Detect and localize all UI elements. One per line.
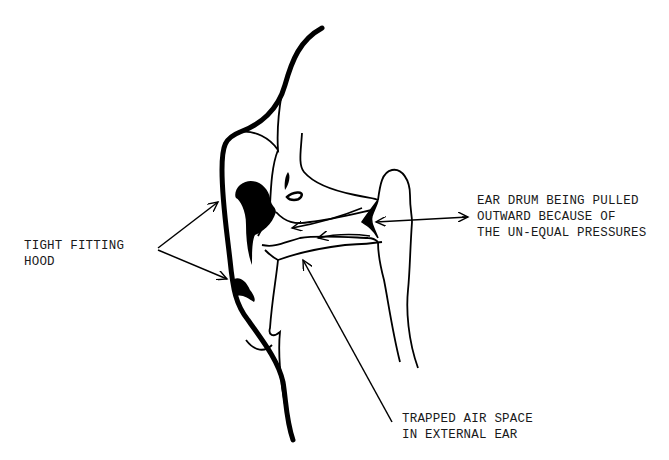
hood-arrow-upper: [158, 202, 218, 248]
eardrum-label-line3: THE UN-EQUAL PRESSURES: [477, 226, 646, 240]
canal-upper-wall: [300, 133, 378, 200]
trapped-air-label-line2: IN EXTERNAL EAR: [402, 428, 518, 442]
hood-outline: [222, 28, 322, 440]
hood-arrow-lower: [158, 250, 227, 279]
lower-canal-top: [278, 242, 382, 260]
ear-drum: [362, 200, 378, 238]
tragus-mark: [285, 172, 290, 190]
middle-ear-outline: [378, 170, 418, 368]
eardrum-label-line1: EAR DRUM BEING PULLED: [477, 194, 639, 208]
hood-label-line2: HOOD: [24, 255, 55, 269]
eardrum-arrow: [376, 217, 468, 222]
trapped-air-label-line1: TRAPPED AIR SPACE: [402, 412, 533, 426]
canal-arrow-upper: [292, 208, 362, 228]
middle-ear-lower: [378, 242, 400, 362]
trapped-air-arrow: [303, 260, 392, 422]
lobe-outline: [265, 250, 285, 405]
hood-label-line1: TIGHT FITTING: [24, 239, 124, 253]
trapped-air-label: TRAPPED AIR SPACE IN EXTERNAL EAR: [402, 411, 533, 443]
eardrum-label-line2: OUTWARD BECAUSE OF: [477, 210, 616, 224]
eardrum-label: EAR DRUM BEING PULLED OUTWARD BECAUSE OF…: [477, 193, 646, 241]
canal-opening: [287, 192, 302, 200]
hood-label: TIGHT FITTING HOOD: [24, 238, 124, 270]
